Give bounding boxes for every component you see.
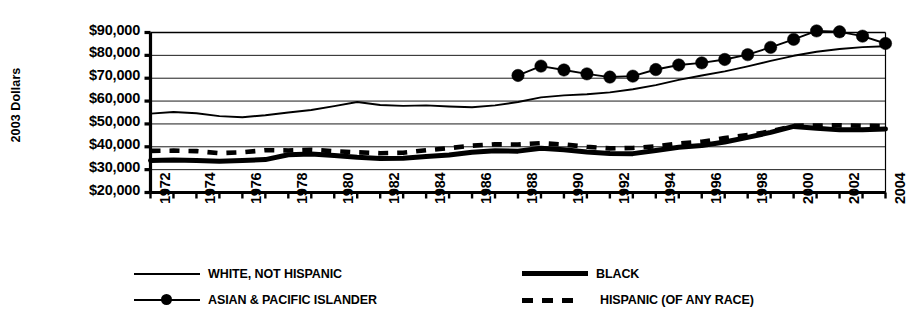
series-marker bbox=[558, 64, 570, 76]
series-marker bbox=[833, 26, 845, 38]
legend-label: WHITE, NOT HISPANIC bbox=[208, 267, 342, 281]
legend-swatch-thick-line bbox=[518, 266, 592, 282]
series-marker bbox=[627, 70, 639, 82]
series-marker bbox=[604, 71, 616, 83]
legend-dash-segment bbox=[562, 298, 573, 303]
series-marker bbox=[535, 60, 547, 72]
legend-label: ASIAN & PACIFIC ISLANDER bbox=[208, 293, 377, 307]
series-marker bbox=[719, 53, 731, 65]
legend-marker-dot-icon bbox=[161, 294, 172, 305]
legend-entry: BLACK bbox=[518, 264, 639, 284]
series-marker bbox=[650, 63, 662, 75]
income-by-race-line-chart: 2003 Dollars $90,000$80,000$70,000$60,00… bbox=[0, 0, 907, 325]
legend-entry: WHITE, NOT HISPANIC bbox=[130, 264, 342, 284]
gridlines bbox=[151, 33, 886, 193]
legend-entry: HISPANIC (OF ANY RACE) bbox=[518, 290, 754, 310]
legend-swatch-thin-line bbox=[130, 266, 204, 282]
legend-entry: ASIAN & PACIFIC ISLANDER bbox=[130, 290, 377, 310]
series-marker bbox=[512, 69, 524, 81]
series-marker bbox=[581, 68, 593, 80]
legend-dash-segment bbox=[522, 298, 533, 303]
legend-dash-segment bbox=[542, 298, 553, 303]
series-marker bbox=[787, 33, 799, 45]
series-marker bbox=[764, 41, 776, 53]
series-marker bbox=[696, 57, 708, 69]
data-series-layer bbox=[151, 25, 892, 161]
series-line bbox=[518, 31, 886, 77]
series-marker bbox=[810, 25, 822, 37]
series-marker bbox=[673, 59, 685, 71]
series-marker bbox=[856, 30, 868, 42]
legend-swatch-dashed-line bbox=[518, 292, 596, 308]
plot-frame bbox=[151, 33, 886, 193]
series-marker bbox=[741, 48, 753, 60]
legend-label: BLACK bbox=[596, 267, 639, 281]
chart-legend: WHITE, NOT HISPANICBLACKASIAN & PACIFIC … bbox=[130, 264, 890, 320]
legend-label: HISPANIC (OF ANY RACE) bbox=[600, 293, 754, 307]
legend-swatch-marker-line bbox=[130, 292, 204, 308]
